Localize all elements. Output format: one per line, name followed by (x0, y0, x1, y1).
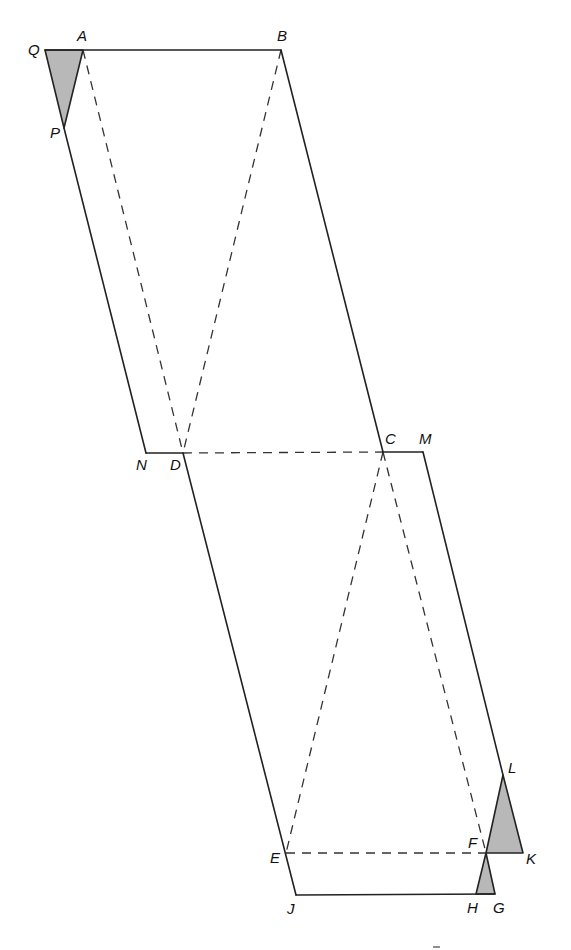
shaded-tabs (45, 50, 523, 894)
solid-line-pn (64, 128, 146, 453)
solid-line-ml (423, 452, 503, 775)
vertex-label-m: M (419, 430, 432, 447)
vertex-label-l: L (508, 759, 516, 776)
vertex-label-a: A (76, 27, 87, 44)
solid-line-dj (183, 453, 296, 895)
shaded-triangle-flk (486, 775, 523, 853)
vertex-label-g: G (493, 899, 505, 916)
solid-line-jg (296, 894, 495, 895)
shaded-triangle-fhg (476, 853, 495, 894)
vertex-label-j: J (286, 900, 295, 917)
vertex-label-k: K (526, 850, 537, 867)
fold-net-diagram: QABPNDCMEJLFKHG (0, 0, 571, 950)
vertex-label-e: E (270, 849, 281, 866)
vertex-label-d: D (170, 456, 181, 473)
shaded-triangle-qap (45, 50, 83, 128)
vertex-label-p: P (50, 124, 60, 141)
vertex-label-n: N (136, 456, 147, 473)
dashed-line-dc (183, 452, 383, 453)
vertex-label-f: F (468, 834, 478, 851)
fold-lines (83, 50, 486, 853)
dashed-line-ce (286, 452, 383, 853)
vertex-label-h: H (467, 899, 478, 916)
vertex-label-c: C (385, 430, 396, 447)
dashed-line-bd (183, 50, 281, 453)
cut-lines (45, 50, 503, 895)
vertex-label-q: Q (28, 41, 40, 58)
vertex-labels: QABPNDCMEJLFKHG (28, 27, 537, 917)
solid-line-bc (281, 50, 383, 452)
vertex-label-b: B (277, 27, 287, 44)
dashed-line-ad (83, 50, 183, 453)
dashed-line-cf (383, 452, 486, 853)
